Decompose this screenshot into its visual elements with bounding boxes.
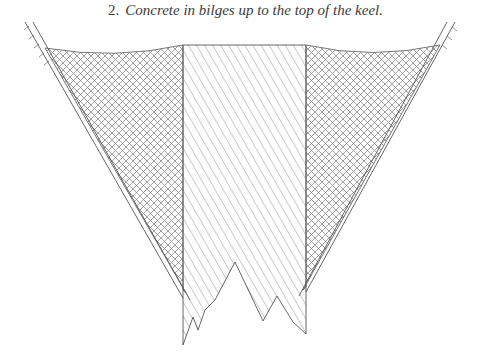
concrete-bilge-right xyxy=(303,45,440,290)
hull-hatch-right xyxy=(442,27,457,49)
hull-hatch-left xyxy=(24,26,49,65)
hull-section-diagram xyxy=(0,0,487,362)
keel xyxy=(183,45,306,345)
